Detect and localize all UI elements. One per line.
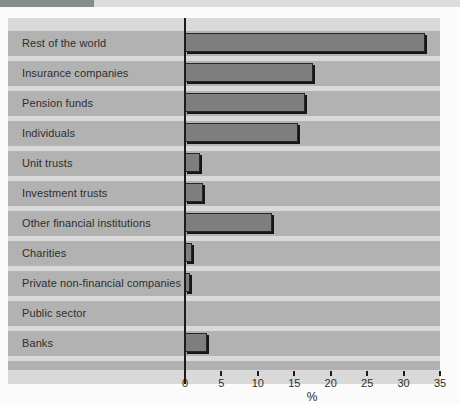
chart-row: Insurance companies bbox=[8, 61, 440, 86]
category-label: Rest of the world bbox=[22, 37, 106, 49]
category-label: Investment trusts bbox=[22, 187, 107, 199]
page: Rest of the worldInsurance companiesPens… bbox=[0, 0, 460, 405]
chart-row: Other financial institutions bbox=[8, 211, 440, 236]
x-axis-tick-label: 10 bbox=[252, 377, 264, 389]
category-label: Other financial institutions bbox=[22, 217, 151, 229]
bar bbox=[185, 123, 298, 142]
x-axis-tick bbox=[366, 371, 368, 376]
bar bbox=[185, 63, 313, 82]
bar bbox=[185, 93, 305, 112]
chart-row: Unit trusts bbox=[8, 151, 440, 176]
chart-row: Private non-financial companies bbox=[8, 271, 440, 296]
x-axis-tick-label: 15 bbox=[288, 377, 300, 389]
x-axis-tick bbox=[330, 371, 332, 376]
category-label: Pension funds bbox=[22, 97, 93, 109]
bar bbox=[185, 183, 203, 202]
chart-row: Banks bbox=[8, 331, 440, 356]
x-axis-tick bbox=[439, 371, 441, 376]
x-axis-tick bbox=[220, 371, 222, 376]
chart-rows: Rest of the worldInsurance companiesPens… bbox=[8, 31, 440, 356]
header-strip bbox=[94, 0, 460, 7]
chart-row: Charities bbox=[8, 241, 440, 266]
bottom-band bbox=[8, 361, 440, 370]
chart-row: Individuals bbox=[8, 121, 440, 146]
category-label: Individuals bbox=[22, 127, 75, 139]
chart-row: Public sector bbox=[8, 301, 440, 326]
baseline-axis-line bbox=[184, 18, 186, 384]
x-axis-tick-label: 5 bbox=[218, 377, 224, 389]
category-label: Banks bbox=[22, 337, 53, 349]
header-accent-bar bbox=[0, 0, 94, 7]
chart-row: Investment trusts bbox=[8, 181, 440, 206]
x-axis-tick-label: 35 bbox=[434, 377, 446, 389]
chart-row: Rest of the world bbox=[8, 31, 440, 56]
bar bbox=[185, 243, 192, 262]
x-axis-tick bbox=[293, 371, 295, 376]
bar bbox=[185, 333, 207, 352]
bar bbox=[185, 153, 200, 172]
x-axis-tick bbox=[403, 371, 405, 376]
x-axis-tick-label: 25 bbox=[361, 377, 373, 389]
category-label: Private non-financial companies bbox=[22, 277, 181, 289]
category-label: Insurance companies bbox=[22, 67, 128, 79]
x-axis-tick-label: 20 bbox=[325, 377, 337, 389]
bar-chart-plot: Rest of the worldInsurance companiesPens… bbox=[8, 18, 440, 384]
chart-row: Pension funds bbox=[8, 91, 440, 116]
category-label: Unit trusts bbox=[22, 157, 73, 169]
category-label: Charities bbox=[22, 247, 66, 259]
x-axis-tick bbox=[257, 371, 259, 376]
category-label: Public sector bbox=[22, 307, 86, 319]
x-axis-title: % bbox=[307, 390, 318, 404]
x-axis-tick-label: 30 bbox=[397, 377, 409, 389]
bar bbox=[185, 213, 272, 232]
bar bbox=[185, 33, 425, 52]
